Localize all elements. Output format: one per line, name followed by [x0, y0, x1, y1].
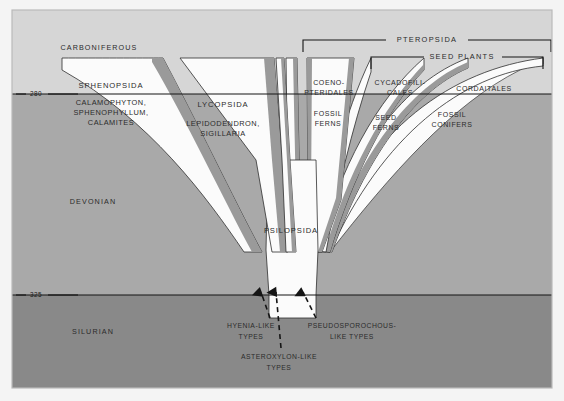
ancestor-pseudosporochous-line1: PSEUDOSPOROCHOUS- — [308, 322, 397, 329]
bracket-label-seed-plants: SEED PLANTS — [429, 52, 494, 61]
taxon-label-cycadofilicales-line1: CYCADOFILI- — [375, 79, 426, 86]
genus-fossil-conifers-line1: FOSSIL — [438, 111, 467, 118]
taxon-label-cycadofilicales-line2: CALES — [387, 89, 413, 96]
era-label-silurian: SILURIAN — [72, 327, 114, 336]
taxon-label-cordaitales: CORDAITALES — [456, 85, 511, 92]
ancestor-asteroxylon-line1: ASTEROXYLON-LIKE — [241, 353, 317, 360]
ancestor-hyenia-line2: TYPES — [239, 333, 264, 340]
genus-sphenopsida-line2: SPHENOPHYLLUM, — [73, 108, 148, 117]
ancestor-pseudosporochous-line2: LIKE TYPES — [330, 333, 374, 340]
era-label-devonian: DEVONIAN — [70, 197, 116, 206]
figure-canvas: CARBONIFEROUS DEVONIAN SILURIAN 280 325 … — [0, 0, 564, 401]
axis-tick-label-280: 280 — [30, 90, 42, 97]
genus-lycopsida-line1: LEPIDODENDRON, — [186, 119, 260, 128]
era-label-carboniferous: CARBONIFEROUS — [61, 43, 138, 52]
genus-fossil-ferns-line2: FERNS — [315, 120, 342, 127]
genus-fossil-conifers-line2: CONIFERS — [432, 121, 473, 128]
genus-lycopsida-line2: SIGILLARIA — [200, 129, 245, 138]
genus-sphenopsida-line3: CALAMITES — [88, 118, 134, 127]
genus-fossil-ferns-line1: FOSSIL — [314, 110, 343, 117]
taxon-label-lycopsida: LYCOPSIDA — [197, 100, 248, 109]
genus-seed-ferns-line2: FERNS — [373, 124, 400, 131]
ancestor-asteroxylon-line2: TYPES — [267, 364, 292, 371]
taxon-label-psilopsida: PSILOPSIDA — [264, 226, 318, 235]
genus-seed-ferns-line1: SEED — [375, 114, 396, 121]
diagram-svg-wrapper: CARBONIFEROUS DEVONIAN SILURIAN 280 325 … — [0, 0, 564, 401]
taxon-label-sphenopsida: SPHENOPSIDA — [79, 81, 144, 90]
axis-tick-label-325: 325 — [30, 291, 42, 298]
taxon-label-coenopteridales-line2: PTERIDALES — [304, 89, 354, 96]
bracket-label-pteropsida: PTEROPSIDA — [397, 35, 458, 44]
ancestor-hyenia-line1: HYENIA-LIKE — [227, 322, 275, 329]
genus-sphenopsida-line1: CALAMOPHYTON, — [76, 98, 146, 107]
taxon-label-coenopteridales-line1: COENO- — [313, 79, 345, 86]
